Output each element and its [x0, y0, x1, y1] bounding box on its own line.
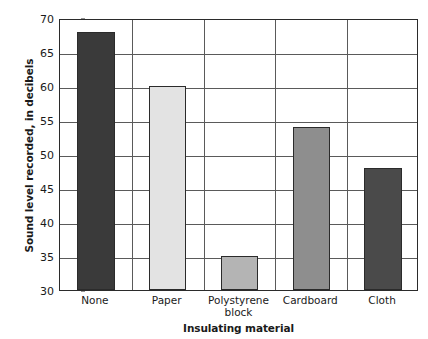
- y-tick-label: 40: [40, 218, 54, 229]
- bar-chart-figure: Sound level recorded, in decibels 303540…: [0, 0, 428, 339]
- x-tick-label: Paper: [131, 294, 203, 306]
- y-tick-label: 35: [40, 252, 54, 263]
- x-tick-label: Cardboard: [274, 294, 346, 306]
- bar-cloth: [364, 168, 401, 290]
- x-axis-title: Insulating material: [59, 322, 418, 334]
- bar-paper: [149, 86, 186, 290]
- y-tick-label: 50: [40, 150, 54, 161]
- bar-cardboard: [293, 127, 330, 290]
- bar-polystyrene-block: [221, 256, 258, 290]
- x-tick-label: Polystyrene block: [203, 294, 275, 318]
- y-tick-label: 65: [40, 48, 54, 59]
- plot-area: [59, 19, 418, 291]
- y-tick-label: 55: [40, 116, 54, 127]
- bar-none: [77, 32, 114, 290]
- x-tick-label: Cloth: [346, 294, 418, 306]
- y-tick-label: 30: [40, 286, 54, 297]
- y-tick-label: 70: [40, 14, 54, 25]
- y-axis-tick-labels: 303540455055606570: [26, 19, 54, 291]
- clipped-title-remnant: [120, 0, 210, 5]
- y-tick-label: 45: [40, 184, 54, 195]
- x-axis-tick-labels: NonePaperPolystyrene blockCardboardCloth: [59, 294, 418, 322]
- bars-layer: [60, 20, 417, 290]
- x-tick-label: None: [59, 294, 131, 306]
- y-tick-label: 60: [40, 82, 54, 93]
